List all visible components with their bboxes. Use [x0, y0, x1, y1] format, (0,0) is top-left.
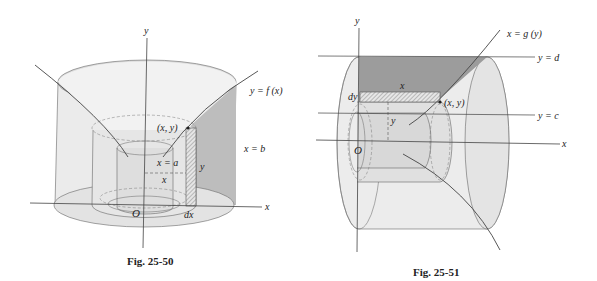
dy-label: dy [348, 91, 358, 102]
height-label: y [199, 161, 205, 172]
length-label: x [399, 80, 405, 91]
x-eq-a-label: x = a [156, 157, 178, 168]
figure-caption: Fig. 25-51 [413, 266, 459, 278]
point-marker [186, 126, 189, 129]
origin-label: O [354, 144, 362, 156]
origin-label: O [132, 207, 140, 219]
y-eq-c-label: y = c [537, 110, 559, 121]
x-eq-b-label: x = b [243, 143, 265, 154]
radius-label: y [390, 115, 396, 126]
shell-strip [186, 128, 196, 206]
y-axis-label: y [143, 25, 149, 36]
diagram-canvas: y x y = f (x) (x, y) x = a x = b y x dx … [0, 0, 597, 281]
radius-label: x [161, 174, 167, 185]
dx-label: dx [184, 209, 194, 220]
y-eq-d-label: y = d [537, 52, 560, 63]
figure-25-50: y x y = f (x) (x, y) x = a x = b y x dx … [30, 25, 283, 267]
y-axis-label: y [354, 15, 360, 26]
x-axis-label: x [561, 138, 567, 149]
curve-label: y = f (x) [249, 85, 283, 97]
figure-25-51: y x x = g (y) y = d y = c (x, y) x y dy … [316, 15, 567, 278]
shell-strip [360, 92, 440, 102]
x-axis-label: x [264, 201, 270, 212]
point-label: (x, y) [157, 122, 178, 134]
line-y-eq-d [318, 56, 535, 57]
curve-label: x = g (y) [506, 28, 542, 40]
figure-caption: Fig. 25-50 [127, 255, 174, 267]
point-marker [438, 100, 441, 103]
point-label: (x, y) [444, 97, 465, 109]
